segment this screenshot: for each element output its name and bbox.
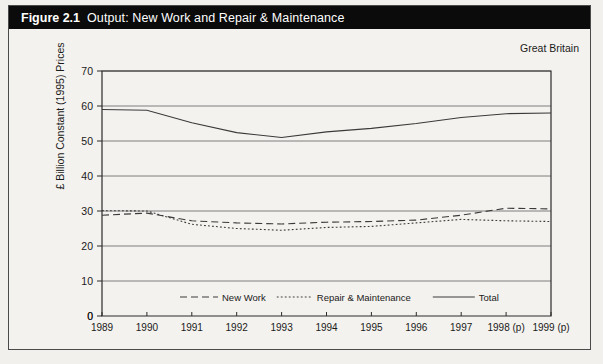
plot-frame: [102, 71, 551, 316]
y-tick-label: 50: [81, 135, 93, 147]
y-tick-label: 30: [81, 205, 93, 217]
legend-label: Total: [479, 292, 499, 303]
x-tick-label: 1992: [226, 322, 249, 333]
x-tick-label: 1999 (p): [532, 322, 569, 333]
y-tick-label: 70: [81, 65, 93, 77]
series-line-solid: [102, 110, 551, 138]
figure-container: Figure 2.1 Output: New Work and Repair &…: [0, 0, 603, 364]
x-tick-label: 1993: [270, 322, 293, 333]
y-tick-label-zero: 0: [87, 310, 93, 322]
legend-label: Repair & Maintenance: [317, 292, 411, 303]
y-tick-label: 40: [81, 170, 93, 182]
x-tick-label: 1994: [315, 322, 338, 333]
y-tick-label: 20: [81, 240, 93, 252]
x-tick-label: 1996: [405, 322, 428, 333]
x-tick-label: 1990: [136, 322, 159, 333]
x-tick-label: 1998 (p): [487, 322, 524, 333]
x-tick-label: 1991: [181, 322, 204, 333]
x-tick-label: 1997: [450, 322, 473, 333]
y-tick-label: 60: [81, 100, 93, 112]
y-tick-label: 10: [81, 275, 93, 287]
x-tick-label: 1989: [91, 322, 114, 333]
line-chart: 0102030405060701989199019911992199319941…: [0, 0, 603, 364]
x-tick-label: 1995: [360, 322, 383, 333]
legend-label: New Work: [222, 292, 266, 303]
series-line-dotted: [102, 211, 551, 231]
